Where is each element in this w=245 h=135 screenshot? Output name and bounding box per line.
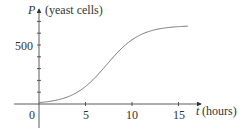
- y-axis-unit: (yeast cells): [45, 4, 103, 16]
- origin-label: 0: [29, 109, 35, 121]
- y-tick-label-500: 500: [15, 40, 33, 52]
- y-axis-var: P: [28, 4, 35, 16]
- x-axis-unit: (hours): [202, 105, 237, 117]
- x-tick-label-10: 10: [126, 109, 138, 121]
- x-axis-var: t: [196, 105, 199, 117]
- x-tick-label-5: 5: [83, 109, 89, 121]
- x-tick-label-15: 15: [173, 109, 185, 121]
- logistic-curve: [39, 26, 188, 102]
